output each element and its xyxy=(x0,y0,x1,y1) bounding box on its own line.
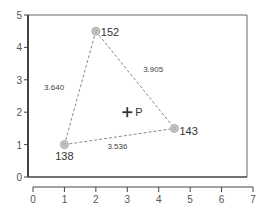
x-tick-label: 1 xyxy=(62,194,68,205)
triangle-edge xyxy=(64,31,95,144)
point-label: 143 xyxy=(179,125,197,137)
edge-length-label: 3.536 xyxy=(107,142,128,151)
point-label: 138 xyxy=(55,150,73,162)
x-tick-label: 6 xyxy=(219,194,225,205)
x-tick-label: 3 xyxy=(125,194,131,205)
x-tick-label: 0 xyxy=(30,194,36,205)
y-tick-label: 0 xyxy=(16,172,22,183)
point-label: 152 xyxy=(101,26,119,38)
marker-label: P xyxy=(135,106,142,118)
y-axis: 012345 xyxy=(16,10,28,183)
y-tick-label: 4 xyxy=(16,42,22,53)
y-tick-label: 5 xyxy=(16,10,22,21)
x-tick-label: 4 xyxy=(156,194,162,205)
x-tick-label: 2 xyxy=(93,194,99,205)
triangle-distance-chart: 012345 01234567 3.6403.9053.536 15214313… xyxy=(0,0,270,212)
edge-length-label: 3.640 xyxy=(44,83,65,92)
triangle-edges: 3.6403.9053.536 xyxy=(44,31,174,150)
y-tick-label: 2 xyxy=(16,107,22,118)
x-tick-label: 7 xyxy=(250,194,256,205)
data-point-152 xyxy=(92,27,100,35)
x-axis: 01234567 xyxy=(30,187,256,205)
y-tick-label: 3 xyxy=(16,75,22,86)
data-point-138 xyxy=(60,141,68,149)
data-point-143 xyxy=(170,124,178,132)
x-tick-label: 5 xyxy=(187,194,193,205)
edge-length-label: 3.905 xyxy=(143,65,164,74)
y-tick-label: 1 xyxy=(16,140,22,151)
p-marker: P xyxy=(122,106,142,118)
